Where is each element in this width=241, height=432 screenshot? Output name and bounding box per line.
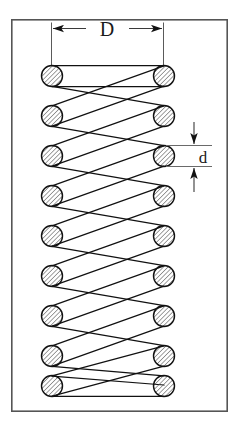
wire-section: [42, 146, 63, 167]
wire-section: [42, 346, 63, 367]
wire-section: [42, 66, 63, 87]
wire-section: [154, 66, 175, 87]
wire-section: [42, 226, 63, 247]
wire-section: [42, 186, 63, 207]
wire-section: [42, 106, 63, 127]
dimension-d-label: d: [199, 148, 208, 167]
spring-diagram-figure: D: [0, 0, 241, 432]
wire-section: [154, 266, 175, 287]
spring-drawing-svg: D: [0, 0, 241, 432]
wire-section: [42, 376, 63, 397]
wire-section: [154, 186, 175, 207]
wire-section: [154, 106, 175, 127]
wire-section: [154, 306, 175, 327]
wire-section: [42, 266, 63, 287]
wire-section: [154, 346, 175, 367]
wire-section: [154, 146, 175, 167]
wire-section: [154, 376, 175, 397]
wire-section: [42, 306, 63, 327]
dimension-D-label: D: [100, 18, 114, 40]
wire-section: [154, 226, 175, 247]
